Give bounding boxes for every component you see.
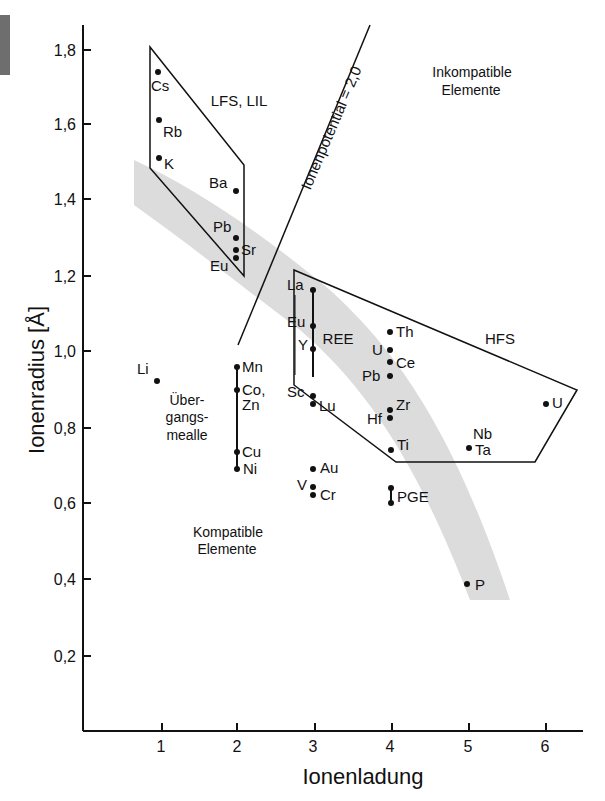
svg-text:U: U xyxy=(372,341,383,358)
svg-text:5: 5 xyxy=(464,738,473,755)
svg-text:Nb: Nb xyxy=(473,425,492,442)
svg-text:2: 2 xyxy=(233,738,242,755)
svg-text:0,4: 0,4 xyxy=(54,571,76,588)
svg-text:Sr: Sr xyxy=(241,241,256,258)
svg-text:Ba: Ba xyxy=(209,174,228,191)
svg-text:gangs-: gangs- xyxy=(166,409,209,425)
svg-text:P: P xyxy=(475,576,485,593)
svg-text:Elemente: Elemente xyxy=(197,541,256,557)
svg-text:3: 3 xyxy=(309,738,318,755)
svg-text:1,0: 1,0 xyxy=(54,343,76,360)
svg-text:Kompatible: Kompatible xyxy=(193,524,263,540)
x-tick-labels: 1 2 3 4 5 6 xyxy=(157,738,550,755)
svg-text:Pb: Pb xyxy=(362,367,380,384)
svg-text:0,6: 0,6 xyxy=(54,495,76,512)
svg-text:Zn: Zn xyxy=(242,396,260,413)
svg-text:6: 6 xyxy=(541,738,550,755)
svg-text:1: 1 xyxy=(157,738,166,755)
svg-text:Ni: Ni xyxy=(243,460,257,477)
ionic-potential-label: Ionenpotential = 2,0 xyxy=(297,64,364,192)
svg-text:Eu: Eu xyxy=(210,257,228,274)
svg-text:mealle: mealle xyxy=(166,427,207,443)
svg-text:Pb: Pb xyxy=(213,218,231,235)
y-axis-title: Ionenradius [Å] xyxy=(24,306,49,454)
svg-text:Cs: Cs xyxy=(151,77,169,94)
x-axis-title: Ionenladung xyxy=(302,764,423,789)
svg-text:1,2: 1,2 xyxy=(54,268,76,285)
svg-text:Y: Y xyxy=(298,336,308,353)
ionic-radius-charge-chart: 1,8 1,6 1,4 1,2 1,0 0,8 0,6 0,4 0,2 1 2 … xyxy=(0,0,605,801)
svg-text:PGE: PGE xyxy=(397,488,429,505)
svg-text:Ti: Ti xyxy=(397,436,409,453)
svg-text:Au: Au xyxy=(320,459,338,476)
svg-text:4: 4 xyxy=(386,738,395,755)
svg-text:REE: REE xyxy=(323,330,354,347)
svg-text:Über-: Über- xyxy=(169,391,204,408)
svg-text:Cu: Cu xyxy=(242,443,261,460)
svg-text:Sc: Sc xyxy=(287,383,305,400)
svg-text:V: V xyxy=(297,476,307,493)
svg-text:Zr: Zr xyxy=(396,396,410,413)
svg-text:Rb: Rb xyxy=(163,123,182,140)
svg-text:La: La xyxy=(287,276,304,293)
svg-text:Lu: Lu xyxy=(319,397,336,414)
y-tick-labels: 1,8 1,6 1,4 1,2 1,0 0,8 0,6 0,4 0,2 xyxy=(54,42,76,665)
svg-text:HFS: HFS xyxy=(485,330,515,347)
svg-text:Ce: Ce xyxy=(396,354,415,371)
svg-text:Elemente: Elemente xyxy=(441,82,500,98)
svg-text:1,8: 1,8 xyxy=(54,42,76,59)
svg-text:K: K xyxy=(164,155,174,172)
svg-text:Th: Th xyxy=(396,323,414,340)
svg-text:Cr: Cr xyxy=(320,486,336,503)
compatibility-band xyxy=(134,160,510,600)
svg-text:Inkompatible: Inkompatible xyxy=(432,64,512,80)
svg-text:0,8: 0,8 xyxy=(54,420,76,437)
svg-text:Li: Li xyxy=(137,360,149,377)
svg-text:1,4: 1,4 xyxy=(54,191,76,208)
svg-text:U: U xyxy=(552,394,563,411)
svg-text:Hf: Hf xyxy=(367,410,383,427)
svg-text:1,6: 1,6 xyxy=(54,116,76,133)
svg-text:LFS, LIL: LFS, LIL xyxy=(211,92,268,109)
svg-text:Eu: Eu xyxy=(287,313,305,330)
svg-text:Mn: Mn xyxy=(242,358,263,375)
svg-text:Ta: Ta xyxy=(475,441,492,458)
svg-text:0,2: 0,2 xyxy=(54,648,76,665)
